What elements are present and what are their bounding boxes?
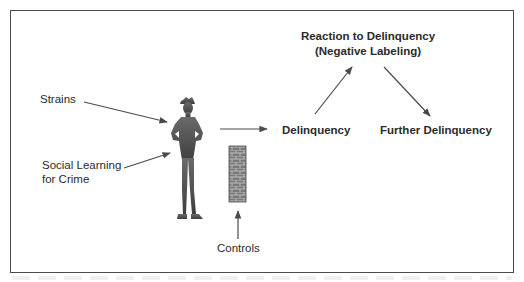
diagram-frame xyxy=(10,10,514,273)
reaction-label-line2: (Negative Labeling) xyxy=(300,44,436,58)
social-learning-label-line1: Social Learning xyxy=(42,158,121,172)
controls-label: Controls xyxy=(217,241,260,255)
further-delinquency-label: Further Delinquency xyxy=(380,123,492,137)
reaction-label-line1: Reaction to Delinquency xyxy=(300,29,436,43)
cropped-caption-residue xyxy=(12,276,512,280)
social-learning-label-line2: for Crime xyxy=(42,172,89,186)
strains-label: Strains xyxy=(40,92,76,106)
delinquency-label: Delinquency xyxy=(282,123,350,137)
